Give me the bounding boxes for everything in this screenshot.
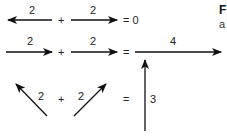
row1-opposite-vectors: 2 + 2 = 0 [8,4,139,26]
row2-vector-b-label: 2 [90,35,96,47]
row1-plus-sign: + [58,14,64,26]
side-caption-title-fragment: F [219,3,226,17]
row3-angled-vectors: 2 + 2 = 3 [16,60,156,131]
row1-result: = 0 [123,14,139,26]
row3-equals-sign: = [123,93,129,105]
row3-vector-b-label: 2 [78,90,84,102]
row3-result-label: 3 [150,93,156,105]
vector-addition-diagram: 2 + 2 = 0 2 + 2 = 4 2 + 2 = 3 F a [0,0,227,136]
row2-equals-sign: = [123,46,129,58]
row1-vector-a-label: 2 [29,4,35,16]
row3-plus-sign: + [58,93,64,105]
row2-same-direction-vectors: 2 + 2 = 4 [6,35,221,58]
row1-vector-b-label: 2 [90,4,96,16]
row2-result-label: 4 [170,35,176,47]
row3-vector-a-label: 2 [38,90,44,102]
row2-vector-a-label: 2 [27,35,33,47]
side-caption-text-fragment: a [219,18,226,30]
row2-plus-sign: + [58,46,64,58]
